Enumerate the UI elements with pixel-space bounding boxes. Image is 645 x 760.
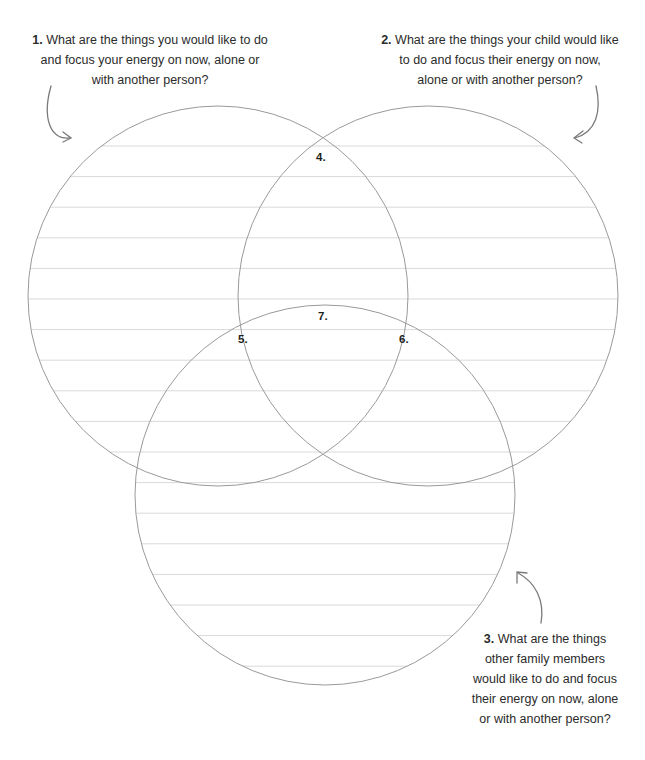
prompt-3-number: 3. <box>484 632 494 646</box>
prompt-2: 2. What are the things your child would … <box>370 30 630 90</box>
prompt-1-number: 1. <box>32 33 42 47</box>
writing-lines <box>0 146 645 666</box>
region-label-5: 5. <box>238 333 248 345</box>
circle-child[interactable] <box>238 106 618 486</box>
region-label-4: 4. <box>316 151 326 163</box>
region-label-7: 7. <box>318 310 328 322</box>
arrow-2-icon <box>574 86 598 143</box>
arrow-1-icon <box>47 86 71 142</box>
prompt-2-number: 2. <box>381 33 391 47</box>
region-label-6: 6. <box>399 333 409 345</box>
circle-family[interactable] <box>135 305 515 685</box>
arrow-3-icon <box>517 572 542 623</box>
prompt-3: 3. What are the things other family memb… <box>470 629 620 729</box>
circle-you[interactable] <box>28 106 408 486</box>
prompt-1: 1. What are the things you would like to… <box>20 30 280 90</box>
